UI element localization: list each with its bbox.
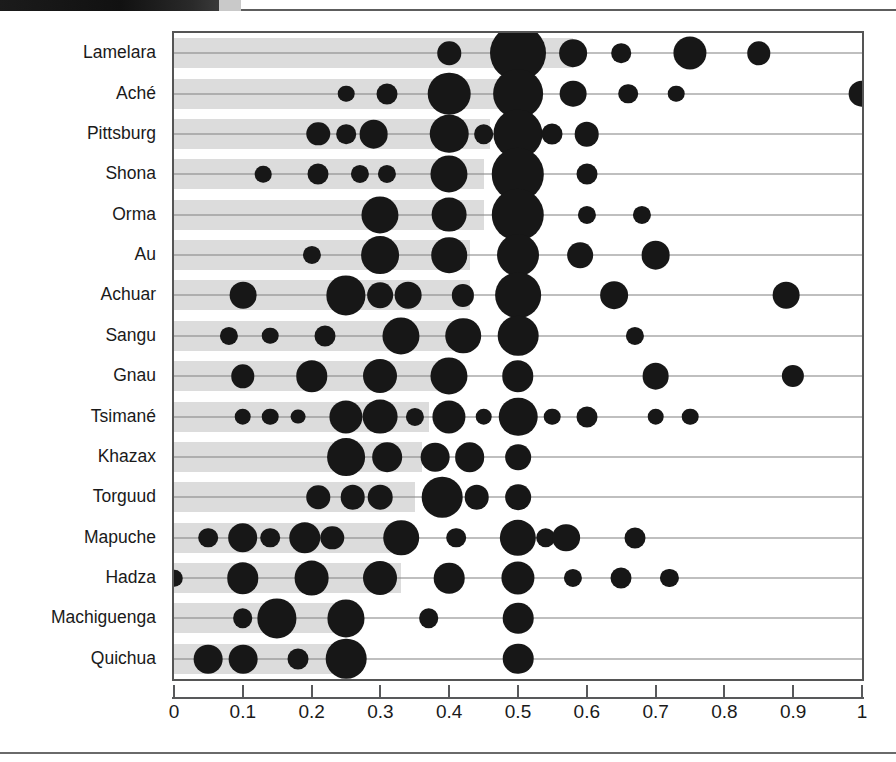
scan-artifact-dark-strip: [0, 0, 219, 11]
data-point: [377, 83, 398, 104]
data-point: [576, 164, 597, 185]
data-point: [452, 284, 474, 306]
x-axis-tick-label: 0.7: [642, 702, 668, 721]
data-point: [431, 156, 468, 193]
data-point: [782, 365, 804, 387]
data-point: [430, 115, 469, 154]
data-point: [419, 609, 439, 629]
data-point: [474, 124, 494, 144]
data-point: [499, 397, 538, 436]
data-point: [492, 188, 544, 240]
x-axis-tick-label: 0.2: [298, 702, 324, 721]
data-point: [434, 563, 465, 594]
data-point: [362, 196, 399, 233]
y-axis-category-labels: LamelaraAchéPittsburgShonaOrmaAuAchuarSa…: [0, 31, 164, 681]
data-point: [673, 37, 706, 70]
x-axis-tick: [861, 685, 863, 699]
data-point: [433, 400, 466, 433]
data-point: [560, 80, 587, 107]
data-point: [428, 72, 471, 115]
x-axis-tick-label: 1: [857, 702, 868, 721]
x-axis-tick: [242, 685, 244, 699]
data-point: [501, 561, 534, 594]
data-point: [455, 442, 485, 472]
data-point: [503, 644, 534, 675]
data-point: [422, 477, 463, 518]
data-point: [363, 399, 398, 434]
x-axis-tick-labels: 00.10.20.30.40.50.60.70.80.91: [172, 702, 864, 730]
data-point: [382, 317, 419, 354]
data-point: [255, 166, 272, 183]
data-point: [228, 644, 257, 673]
data-point: [361, 236, 399, 274]
x-axis-tick-label: 0.5: [505, 702, 531, 721]
data-point: [294, 561, 329, 596]
y-axis-label-quichua: Quichua: [91, 650, 156, 668]
data-point: [498, 316, 539, 357]
data-point: [600, 282, 628, 310]
x-axis-tick: [723, 685, 725, 699]
data-point: [341, 485, 366, 510]
data-point: [368, 283, 394, 309]
data-point: [542, 123, 563, 144]
data-point: [773, 282, 800, 309]
data-point: [567, 242, 593, 268]
data-point: [327, 600, 364, 637]
y-axis-label-torguud: Torguud: [93, 489, 156, 507]
x-axis: [172, 681, 864, 699]
x-axis-tick: [448, 685, 450, 699]
data-point: [642, 363, 669, 390]
data-point: [747, 41, 770, 64]
x-axis-tick-label: 0.3: [367, 702, 393, 721]
data-point: [503, 603, 534, 634]
y-axis-label-achuar: Achuar: [101, 287, 156, 305]
x-axis-tick-label: 0.1: [230, 702, 256, 721]
x-axis-tick-label: 0: [169, 702, 180, 721]
y-axis-label-mapuche: Mapuche: [84, 529, 156, 547]
data-point: [326, 639, 367, 680]
data-point: [660, 569, 678, 587]
data-point: [368, 485, 393, 510]
data-point: [287, 648, 308, 669]
data-point: [363, 561, 397, 595]
data-point: [626, 327, 644, 345]
y-axis-label-au: Au: [135, 246, 156, 264]
data-point: [194, 644, 223, 673]
data-point: [262, 408, 279, 425]
data-point: [431, 237, 467, 273]
data-point: [432, 197, 467, 232]
y-axis-label-hadza: Hadza: [105, 569, 156, 587]
data-point: [262, 328, 279, 345]
data-point: [199, 528, 219, 548]
data-point: [338, 85, 355, 102]
y-axis-label-khazax: Khazax: [98, 448, 156, 466]
y-axis-label-orma: Orma: [112, 206, 156, 224]
data-point: [682, 408, 699, 425]
y-axis-label-shona: Shona: [105, 166, 156, 184]
y-axis-label-sangu: Sangu: [105, 327, 156, 345]
data-point: [668, 85, 685, 102]
x-axis-tick: [311, 685, 313, 699]
data-point: [559, 39, 587, 67]
plot-area: [172, 31, 864, 681]
data-point: [502, 360, 533, 391]
page-rule-top: [241, 9, 896, 11]
y-axis-label-machiguenga: Machiguenga: [51, 610, 156, 628]
data-point: [552, 524, 580, 552]
y-axis-label-gnau: Gnau: [113, 367, 156, 385]
data-point: [290, 409, 305, 424]
data-point: [315, 325, 336, 346]
data-point: [363, 359, 397, 393]
x-axis-tick-label: 0.8: [711, 702, 737, 721]
x-axis-tick-label: 0.9: [780, 702, 806, 721]
data-point: [497, 234, 539, 276]
data-point: [564, 569, 582, 587]
y-axis-label-lamelara: Lamelara: [83, 44, 156, 62]
x-axis-tick: [517, 685, 519, 699]
data-point: [611, 568, 632, 589]
data-point: [611, 43, 631, 63]
x-axis-tick: [586, 685, 588, 699]
data-point: [641, 241, 670, 270]
y-axis-label-tsimané: Tsimané: [91, 408, 156, 426]
data-point: [229, 282, 256, 309]
